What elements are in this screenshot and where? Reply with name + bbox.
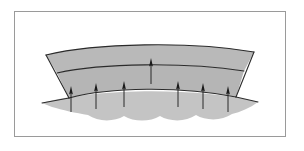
cross-section-svg	[0, 0, 304, 151]
figure-root	[0, 0, 304, 151]
